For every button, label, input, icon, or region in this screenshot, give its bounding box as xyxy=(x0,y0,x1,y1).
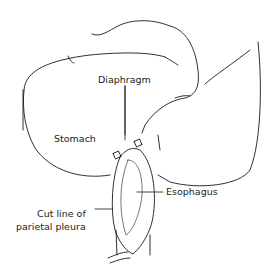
esophagus-outline xyxy=(125,86,160,150)
anatomical-diagram: Diaphragm Stomach Esophagus Cut line of … xyxy=(0,0,279,274)
label-diaphragm: Diaphragm xyxy=(98,74,151,85)
label-cut-line-1: Cut line of xyxy=(37,208,86,219)
stomach-outline xyxy=(23,53,165,176)
label-esophagus: Esophagus xyxy=(166,186,218,197)
label-cut-line-2: parietal pleura xyxy=(16,221,86,232)
diagram-drawing xyxy=(0,0,279,274)
label-stomach: Stomach xyxy=(54,133,96,144)
